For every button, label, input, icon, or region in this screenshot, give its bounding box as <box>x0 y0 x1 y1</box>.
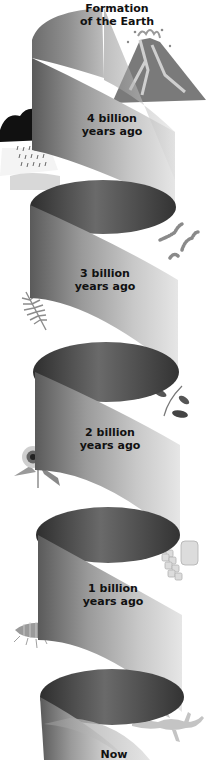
ribbon-loop-4 <box>40 669 184 760</box>
stage-label-formation: Formation of the Earth <box>57 2 177 28</box>
stage-label-1-billion: 1 billion years ago <box>53 582 173 608</box>
stage-label-now: Now <box>54 748 174 760</box>
stage-label-3-billion: 3 billion years ago <box>45 267 165 293</box>
stage-label-4-billion: 4 billion years ago <box>52 112 172 138</box>
bacteria-chain-icon <box>160 224 198 258</box>
stage-label-2-billion: 2 billion years ago <box>50 426 170 452</box>
